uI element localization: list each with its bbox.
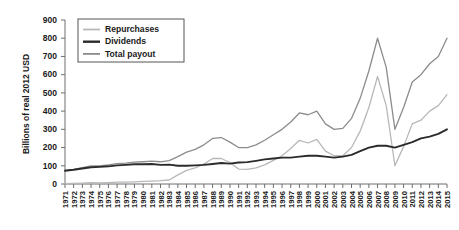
x-tick-label: 1996 xyxy=(278,191,287,208)
y-axis-title: Billions of real 2012 USD xyxy=(21,54,31,154)
y-tick-label: 100 xyxy=(43,161,57,171)
x-tick-label: 1984 xyxy=(174,190,183,208)
x-tick-label: 2013 xyxy=(426,191,435,208)
x-tick-label: 2010 xyxy=(400,191,409,208)
x-tick-label: 1975 xyxy=(96,190,105,208)
x-tick-label: 1991 xyxy=(235,190,244,208)
x-tick-label: 2012 xyxy=(417,191,426,208)
x-tick-label: 1993 xyxy=(252,191,261,208)
x-tick-label: 1972 xyxy=(70,191,79,208)
x-tick-label: 1986 xyxy=(191,191,200,208)
y-tick-label: 700 xyxy=(43,51,57,61)
line-chart: Billions of real 2012 USD 01002003004005… xyxy=(0,0,459,230)
x-tick-label: 1982 xyxy=(157,191,166,208)
x-tick-label: 1974 xyxy=(87,190,96,208)
y-tick-label: 500 xyxy=(43,88,57,98)
series-line-dividends xyxy=(65,129,447,170)
y-tick-label: 400 xyxy=(43,106,57,116)
x-tick-label: 1995 xyxy=(269,190,278,208)
x-tick-label: 2005 xyxy=(356,190,365,208)
x-tick-label: 1998 xyxy=(295,191,304,208)
x-tick-label: 1987 xyxy=(200,191,209,208)
x-tick-label: 2003 xyxy=(339,191,348,208)
y-tick-label: 200 xyxy=(43,142,57,152)
chart-container: Billions of real 2012 USD 01002003004005… xyxy=(0,0,459,230)
legend-label-repurchases: Repurchases xyxy=(105,24,159,34)
x-tick-label: 2011 xyxy=(408,190,417,207)
x-tick-label: 2015 xyxy=(443,190,452,208)
x-tick-label: 2007 xyxy=(374,191,383,208)
y-tick-label: 0 xyxy=(52,179,57,189)
x-tick-label: 2002 xyxy=(330,191,339,208)
legend-label-dividends: Dividends xyxy=(105,36,146,46)
x-tick-label: 2008 xyxy=(382,191,391,208)
x-tick-label: 1977 xyxy=(113,191,122,208)
x-tick-label: 1999 xyxy=(304,191,313,208)
y-axis-ticks: 0100200300400500600700800900 xyxy=(43,15,65,189)
x-tick-label: 2009 xyxy=(391,191,400,208)
x-tick-label: 2006 xyxy=(365,191,374,208)
x-tick-label: 1989 xyxy=(217,191,226,208)
x-tick-label: 1976 xyxy=(104,191,113,208)
x-tick-label: 1979 xyxy=(130,191,139,208)
x-tick-label: 1985 xyxy=(183,190,192,208)
x-tick-label: 1994 xyxy=(261,190,270,208)
x-tick-label: 1973 xyxy=(78,191,87,208)
x-tick-label: 1990 xyxy=(226,191,235,208)
y-axis-title-label: Billions of real 2012 USD xyxy=(21,54,31,154)
x-tick-label: 1978 xyxy=(122,191,131,208)
y-tick-label: 900 xyxy=(43,15,57,25)
x-tick-label: 1983 xyxy=(165,191,174,208)
x-tick-label: 1992 xyxy=(243,191,252,208)
chart-legend: RepurchasesDividendsTotal payout xyxy=(78,19,184,62)
y-tick-label: 800 xyxy=(43,33,57,43)
legend-label-total-payout: Total payout xyxy=(105,49,156,59)
x-tick-label: 1980 xyxy=(139,191,148,208)
x-tick-label: 1988 xyxy=(209,191,218,208)
x-tick-label: 2004 xyxy=(348,190,357,208)
x-tick-label: 1981 xyxy=(148,190,157,208)
y-tick-label: 300 xyxy=(43,124,57,134)
x-tick-label: 1997 xyxy=(287,191,296,208)
y-tick-label: 600 xyxy=(43,69,57,79)
x-tick-label: 2000 xyxy=(313,191,322,208)
x-tick-label: 2001 xyxy=(321,190,330,208)
x-tick-label: 1971 xyxy=(61,190,70,208)
x-axis-ticks: 1971197219731974197519761977197819791980… xyxy=(61,184,452,208)
x-tick-label: 2014 xyxy=(434,190,443,208)
